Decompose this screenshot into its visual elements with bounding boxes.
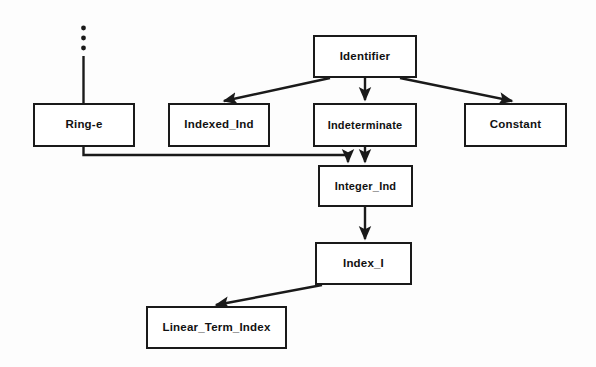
node-index-i[interactable]: Index_I bbox=[315, 242, 412, 285]
node-linear-term-index[interactable]: Linear_Term_Index bbox=[146, 306, 287, 349]
edges-layer bbox=[0, 0, 596, 367]
node-label-indexed-ind: Indexed_Ind bbox=[184, 119, 253, 131]
node-integer-ind[interactable]: Integer_Ind bbox=[318, 165, 413, 207]
node-label-integer-ind: Integer_Ind bbox=[335, 181, 397, 192]
node-identifier[interactable]: Identifier bbox=[313, 35, 417, 78]
edge-identifier-indexed-ind bbox=[224, 78, 330, 101]
node-label-ring-e: Ring-e bbox=[66, 119, 103, 131]
edge-ring-e-integer-ind bbox=[84, 147, 349, 162]
edge-dotted-to-ring-e bbox=[81, 26, 86, 103]
node-indexed-ind[interactable]: Indexed_Ind bbox=[168, 103, 270, 147]
node-label-constant: Constant bbox=[490, 119, 541, 131]
diagram-canvas: Identifier Ring-e Indexed_Ind Indetermin… bbox=[0, 0, 596, 367]
node-label-identifier: Identifier bbox=[340, 51, 391, 63]
edge-index-i-linear-term-index bbox=[216, 285, 322, 305]
node-constant[interactable]: Constant bbox=[464, 103, 567, 147]
node-label-indeterminate: Indeterminate bbox=[328, 120, 403, 131]
node-label-linear-term-index: Linear_Term_Index bbox=[162, 322, 270, 334]
node-ring-e[interactable]: Ring-e bbox=[33, 103, 135, 147]
edge-identifier-constant bbox=[400, 78, 512, 101]
node-label-index-i: Index_I bbox=[343, 258, 384, 270]
node-indeterminate[interactable]: Indeterminate bbox=[313, 103, 417, 147]
